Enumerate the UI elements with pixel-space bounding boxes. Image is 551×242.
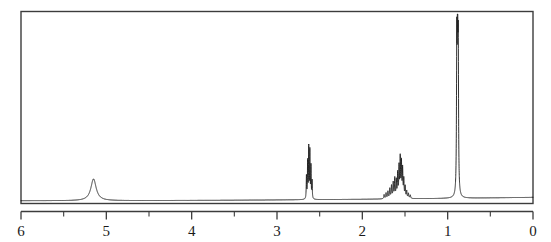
- spectrum-canvas: 6543210: [0, 0, 551, 242]
- x-axis-tick-label: 5: [103, 223, 111, 239]
- x-axis-tick-label: 3: [273, 223, 281, 239]
- nmr-spectrum-figure: 6543210: [0, 0, 551, 242]
- x-axis-tick-label: 0: [529, 223, 537, 239]
- x-axis-tick-label: 2: [359, 223, 367, 239]
- x-axis-tick-label: 6: [17, 223, 25, 239]
- x-axis-tick-label: 1: [444, 223, 452, 239]
- figure-background: [0, 0, 551, 242]
- x-axis-tick-label: 4: [188, 223, 196, 239]
